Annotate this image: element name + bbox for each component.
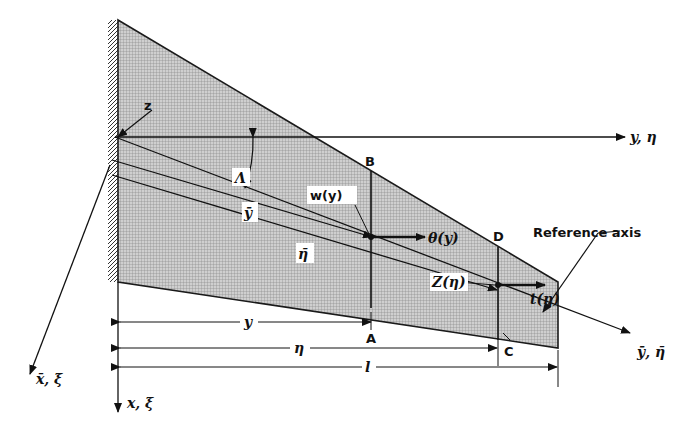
label-y-eta: y, η — [629, 129, 657, 145]
label-etabar: η̄ — [298, 246, 308, 262]
wing-planform — [118, 20, 558, 348]
wall-support — [108, 20, 118, 282]
label-C: C — [504, 344, 514, 359]
dim-label-eta: η — [294, 340, 304, 356]
label-theta-y: θ(y) — [428, 230, 459, 246]
label-xbar-xibar: x̄, ξ̄ — [35, 371, 63, 387]
label-B: B — [365, 154, 375, 169]
label-ybar-etabar: ȳ, η̄ — [636, 344, 665, 360]
dim-label-l: l — [365, 359, 370, 375]
label-D: D — [493, 229, 504, 244]
label-lambda: Λ — [233, 170, 246, 186]
xbar-xibar-axis — [30, 165, 110, 374]
wing-diagram: z y, η Λ B w(y) ȳ θ(y) η̄ D Reference ax… — [0, 0, 695, 433]
label-Z-eta: Z(η) — [431, 274, 466, 290]
label-z: z — [144, 98, 152, 113]
label-t-eta: t(η) — [530, 291, 560, 307]
label-reference-axis: Reference axis — [533, 225, 641, 240]
label-x-xi: x, ξ — [126, 395, 154, 411]
label-A: A — [366, 331, 376, 346]
dim-label-y: y — [243, 314, 253, 330]
label-w-y: w(y) — [310, 188, 342, 203]
label-ybar: ȳ — [243, 205, 253, 221]
